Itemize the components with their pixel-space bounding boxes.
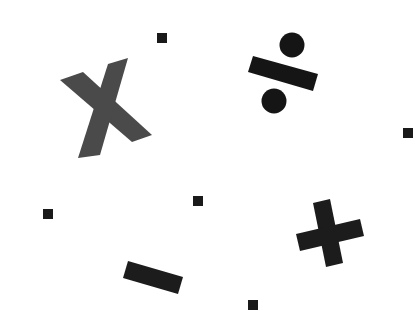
dot-icon bbox=[248, 300, 258, 310]
dot-icon bbox=[193, 196, 203, 206]
symbols-illustration bbox=[0, 0, 419, 315]
minus-icon bbox=[123, 261, 183, 294]
math-symbols-canvas bbox=[0, 0, 419, 315]
multiply-icon bbox=[60, 58, 152, 158]
decorative-dots bbox=[43, 33, 413, 310]
dot-icon bbox=[157, 33, 167, 43]
dot-icon bbox=[403, 128, 413, 138]
plus-icon bbox=[296, 199, 364, 267]
divide-icon bbox=[248, 33, 318, 114]
dot-icon bbox=[43, 209, 53, 219]
